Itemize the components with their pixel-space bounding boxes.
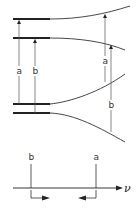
spectral-line-a-label: a xyxy=(94,152,100,162)
energy-level-diagram: a b a b ν b a xyxy=(0,0,140,211)
right-transition-a: a xyxy=(103,16,109,82)
left-transition-a-label: a xyxy=(17,66,23,76)
spectrum: ν b a xyxy=(13,152,131,201)
shift-arrow-left-icon xyxy=(78,190,96,201)
left-transition-b-label: b xyxy=(33,66,39,76)
right-transition-b: b xyxy=(109,47,115,132)
level-lower-2 xyxy=(13,113,125,142)
left-transition-b: b xyxy=(33,41,39,113)
level-upper-1 xyxy=(13,6,130,19)
right-transition-b-label: b xyxy=(109,100,115,110)
right-transition-a-label: a xyxy=(103,56,109,66)
shift-arrow-right-icon xyxy=(31,190,50,201)
axis-arrow-icon xyxy=(116,186,123,191)
spectral-line-b-label: b xyxy=(29,152,35,162)
left-transition-a: a xyxy=(17,22,23,104)
frequency-axis-label: ν xyxy=(124,182,131,195)
level-upper-2 xyxy=(13,38,125,50)
